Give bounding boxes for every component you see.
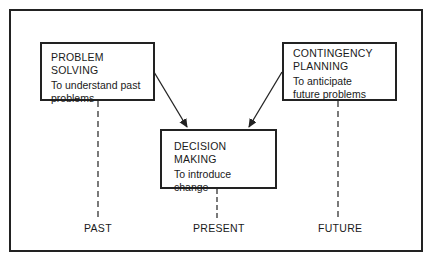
problem-solving-box: PROBLEM SOLVING To understand past probl… [40, 42, 155, 101]
problem-solving-title: PROBLEM SOLVING [51, 51, 144, 77]
arrow-contingency-to-decision [249, 72, 282, 127]
contingency-planning-box: CONTINGENCY PLANNING To anticipate futur… [282, 42, 397, 101]
timeline-label-present: PRESENT [193, 222, 245, 234]
contingency-planning-desc-line2: future problems [293, 88, 386, 101]
decision-making-title: DECISION MAKING [174, 140, 266, 166]
decision-making-box: DECISION MAKING To introduce change [160, 129, 277, 189]
problem-solving-desc-line1: To understand past [51, 79, 144, 92]
contingency-planning-desc-line1: To anticipate [293, 75, 386, 88]
timeline-label-past: PAST [84, 222, 112, 234]
problem-solving-desc-line2: problems [51, 92, 144, 105]
timeline-label-future: FUTURE [318, 222, 362, 234]
arrow-problem-to-decision [154, 72, 187, 127]
decision-making-desc: To introduce change [174, 168, 266, 194]
contingency-planning-title-line1: CONTINGENCY [293, 47, 386, 60]
contingency-planning-title-line2: PLANNING [293, 60, 386, 73]
